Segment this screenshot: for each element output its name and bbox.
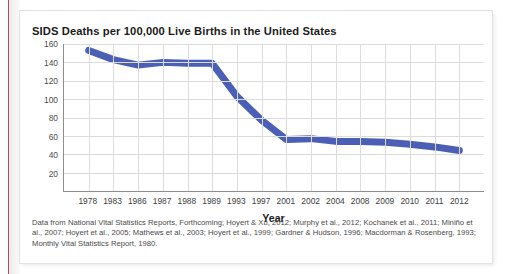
gridline-vertical xyxy=(435,44,436,191)
x-tick-label: 2011 xyxy=(425,196,443,206)
gridline-vertical xyxy=(336,44,337,191)
gridline-vertical xyxy=(286,44,287,191)
gridline-vertical xyxy=(360,44,361,191)
gridline-horizontal xyxy=(64,99,484,100)
x-tick-label: 1997 xyxy=(252,196,271,206)
plot-area xyxy=(63,44,484,192)
gridline-vertical xyxy=(212,44,213,191)
gridline-horizontal xyxy=(64,118,484,119)
gridline-vertical xyxy=(163,44,164,191)
gridline-horizontal xyxy=(64,44,484,45)
y-tick-label: 120 xyxy=(44,76,58,86)
gridline-horizontal xyxy=(64,136,484,137)
figure-card: SIDS Deaths per 100,000 Live Births in t… xyxy=(20,11,492,263)
gridline-horizontal xyxy=(64,154,484,155)
y-axis: 16014012010080604020 xyxy=(32,44,58,192)
y-tick-label: 40 xyxy=(49,150,58,160)
gridline-horizontal xyxy=(64,173,484,174)
gridline-horizontal xyxy=(64,81,484,82)
y-tick-label: 160 xyxy=(44,39,58,49)
gridline-vertical xyxy=(237,44,238,191)
gridline-horizontal xyxy=(64,62,484,63)
gridline-vertical xyxy=(459,44,460,191)
y-tick-label: 60 xyxy=(49,132,58,142)
y-tick-label: 20 xyxy=(49,169,58,179)
gridline-vertical xyxy=(385,44,386,191)
figure-title: SIDS Deaths per 100,000 Live Births in t… xyxy=(32,25,337,37)
y-tick-label: 80 xyxy=(49,113,58,123)
x-tick-label: 1987 xyxy=(153,196,172,206)
x-tick-label: 2009 xyxy=(376,196,395,206)
gridline-vertical xyxy=(188,44,189,191)
gridline-vertical xyxy=(113,44,114,191)
x-tick-label: 2010 xyxy=(400,196,419,206)
x-tick-label: 2008 xyxy=(351,196,370,206)
gridline-vertical xyxy=(138,44,139,191)
x-tick-label: 2002 xyxy=(301,196,320,206)
gridline-vertical xyxy=(262,44,263,191)
gridline-vertical xyxy=(410,44,411,191)
x-tick-label: 2001 xyxy=(277,196,296,206)
x-tick-label: 1989 xyxy=(202,196,221,206)
x-tick-label: 1986 xyxy=(128,196,147,206)
x-axis: 1978198319861987198819891993199720012002… xyxy=(63,196,484,209)
gridline-vertical xyxy=(311,44,312,191)
x-tick-label: 2012 xyxy=(450,196,469,206)
line-chart: 16014012010080604020 1978198319861987198… xyxy=(32,44,484,204)
plot-inner xyxy=(64,44,484,191)
x-tick-label: 1978 xyxy=(78,196,97,206)
x-tick-label: 1983 xyxy=(103,196,122,206)
gridline-vertical xyxy=(89,44,90,191)
x-tick-label: 2004 xyxy=(326,196,345,206)
x-tick-label: 1993 xyxy=(227,196,246,206)
source-note: Data from National Vital Statistics Repo… xyxy=(32,218,482,249)
page-gutter xyxy=(9,0,20,274)
x-tick-label: 1988 xyxy=(177,196,196,206)
y-tick-label: 140 xyxy=(44,58,58,68)
y-tick-label: 100 xyxy=(44,95,58,105)
